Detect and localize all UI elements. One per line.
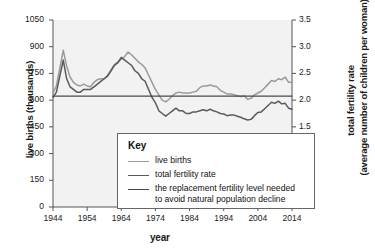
- y-axis-left-tick-label: 750: [14, 67, 44, 77]
- legend-swatch-line: [128, 175, 149, 176]
- legend-item-label: the replacement fertility level needed: [155, 183, 295, 193]
- legend-swatch-line: [128, 161, 149, 162]
- x-axis-tick-label: 2014: [275, 213, 309, 223]
- y-axis-right-tick-label: 3.5: [299, 14, 329, 24]
- x-axis-tick-label: 1964: [104, 213, 138, 223]
- x-axis-tick-label: 1984: [173, 213, 207, 223]
- y-axis-right-tick-label: 3.0: [299, 41, 329, 51]
- chart-figure: live births (thousands) total fertility …: [0, 0, 375, 250]
- y-axis-right-tick-label: 1.5: [299, 121, 329, 131]
- y-axis-left-tick-label: 300: [14, 148, 44, 158]
- y-axis-left-tick-label: 600: [14, 94, 44, 104]
- y-axis-left-tick-label: 900: [14, 41, 44, 51]
- y-axis-left-tick-label: 1050: [14, 14, 44, 24]
- x-axis-tick-label: 2004: [241, 213, 275, 223]
- x-axis-tick-label: 1994: [207, 213, 241, 223]
- legend-item-label: live births: [155, 155, 191, 165]
- legend-swatch-line: [128, 189, 149, 190]
- x-axis-tick-label: 1944: [36, 213, 70, 223]
- x-axis-tick-label: 1974: [138, 213, 172, 223]
- y-axis-left-tick-label: 0: [14, 201, 44, 211]
- y-axis-left-tick-label: 450: [14, 121, 44, 131]
- legend-title: Key: [128, 140, 146, 151]
- legend-item-label-line2: to avoid natural population decline: [155, 194, 285, 204]
- y-axis-left-tick-label: 150: [14, 174, 44, 184]
- legend-item-label: total fertility rate: [155, 169, 216, 179]
- y-axis-right-tick-label: 2.0: [299, 94, 329, 104]
- x-axis-tick-label: 1954: [70, 213, 104, 223]
- y-axis-right-tick-label: 2.5: [299, 67, 329, 77]
- legend-box: Keylive birthstotal fertility ratethe re…: [117, 133, 315, 209]
